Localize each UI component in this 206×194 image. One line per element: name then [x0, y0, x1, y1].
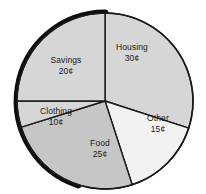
pie-chart-graphic	[0, 0, 206, 194]
pie-chart: Housing 30¢ Other 15¢ Food 25¢ Clothing …	[0, 0, 206, 194]
pie-slice-savings[interactable]	[17, 13, 105, 101]
